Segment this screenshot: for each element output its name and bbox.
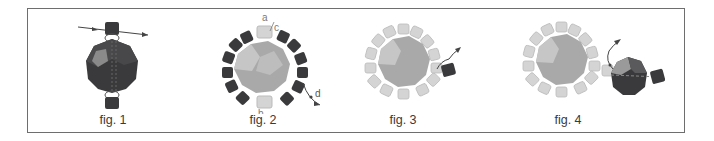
cube-bead-icon xyxy=(105,22,119,35)
figure-1: fig. 1 xyxy=(68,9,158,132)
figure-3: fig. 3 xyxy=(353,9,473,132)
cube-bead-icon xyxy=(105,97,119,109)
fig4-caption: fig. 4 xyxy=(488,113,648,127)
figure-2: a c b d fig. 2 xyxy=(208,9,338,132)
fig3-illustration xyxy=(353,9,473,109)
fig1-illustration xyxy=(68,9,158,109)
label-c: c xyxy=(274,22,279,33)
fig2-caption: fig. 2 xyxy=(198,113,328,127)
diagram-frame: fig. 1 xyxy=(27,8,685,133)
label-d: d xyxy=(315,88,321,99)
fig3-caption: fig. 3 xyxy=(343,113,463,127)
figure-4: fig. 4 xyxy=(513,9,673,132)
fig2-illustration: a c b d xyxy=(208,9,338,114)
fig4-illustration xyxy=(513,9,673,109)
fig1-caption: fig. 1 xyxy=(68,113,158,127)
label-a: a xyxy=(262,12,268,23)
